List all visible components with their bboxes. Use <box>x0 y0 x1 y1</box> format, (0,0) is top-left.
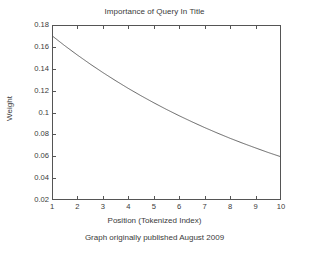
x-tick-label: 1 <box>42 203 62 211</box>
y-tick-label: 0.1 <box>38 109 49 117</box>
axis-frame <box>53 26 281 200</box>
x-tick-label: 7 <box>195 203 215 211</box>
x-tick-label: 8 <box>220 203 240 211</box>
plot-canvas <box>52 25 281 200</box>
y-axis-label: Weight <box>5 79 14 139</box>
y-tick-label: 0.04 <box>34 174 49 182</box>
x-tick-label: 4 <box>118 203 138 211</box>
x-tick-label: 3 <box>93 203 113 211</box>
x-tick-label: 6 <box>169 203 189 211</box>
plot-area <box>52 25 281 200</box>
x-tick-label: 9 <box>246 203 266 211</box>
y-tick-label: 0.16 <box>34 43 49 51</box>
x-axis-tick-labels: 12345678910 <box>52 203 281 215</box>
x-tick-label: 10 <box>271 203 291 211</box>
y-axis-tick-labels: 0.020.040.060.080.10.120.140.160.18 <box>14 25 49 200</box>
y-tick-label: 0.08 <box>34 130 49 138</box>
x-axis-label: Position (Tokenized Index) <box>0 216 309 225</box>
chart-figure: Importance of Query In Title Google Best… <box>0 0 309 257</box>
x-tick-label: 5 <box>144 203 164 211</box>
x-tick-label: 2 <box>67 203 87 211</box>
y-tick-label: 0.18 <box>34 21 49 29</box>
plot-frame <box>53 26 281 200</box>
y-tick-label: 0.12 <box>34 87 49 95</box>
y-tick-label: 0.06 <box>34 152 49 160</box>
chart-title: Importance of Query In Title <box>0 7 309 16</box>
y-tick-label: 0.14 <box>34 65 49 73</box>
figure-caption: Graph originally published August 2009 <box>0 233 309 242</box>
